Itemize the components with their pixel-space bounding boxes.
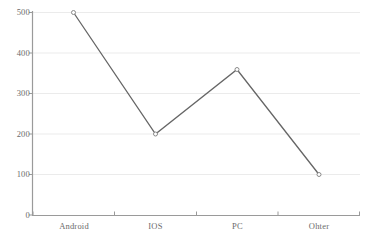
y-axis-tick-400: 400 — [0, 49, 30, 58]
y-tick-label: 300 — [2, 89, 30, 98]
y-tick-label: 500 — [2, 8, 30, 17]
y-tick-label: 0 — [2, 211, 30, 220]
y-axis-tick-100: 100 — [0, 170, 30, 179]
data-point-ios — [154, 132, 158, 136]
x-axis-label-pc: PC — [197, 221, 279, 231]
chart-canvas — [0, 0, 369, 242]
x-axis-label-ohter: Ohter — [278, 221, 360, 231]
y-tick-label: 400 — [2, 49, 30, 58]
data-point-ohter — [317, 173, 321, 177]
x-axis-label-android: Android — [33, 221, 115, 231]
y-axis-tick-500: 500 — [0, 8, 30, 17]
y-tick-label: 100 — [2, 170, 30, 179]
gridlines — [33, 13, 360, 175]
y-axis-tick-200: 200 — [0, 130, 30, 139]
y-tick-label: 200 — [2, 130, 30, 139]
y-axis-tick-300: 300 — [0, 89, 30, 98]
line-chart: 500 400 300 200 100 0 Android IOS PC Oht… — [0, 0, 369, 242]
x-axis-label-ios: IOS — [115, 221, 197, 231]
data-point-android — [72, 11, 76, 15]
y-axis-tick-0: 0 — [0, 211, 30, 220]
data-point-pc — [235, 68, 239, 72]
